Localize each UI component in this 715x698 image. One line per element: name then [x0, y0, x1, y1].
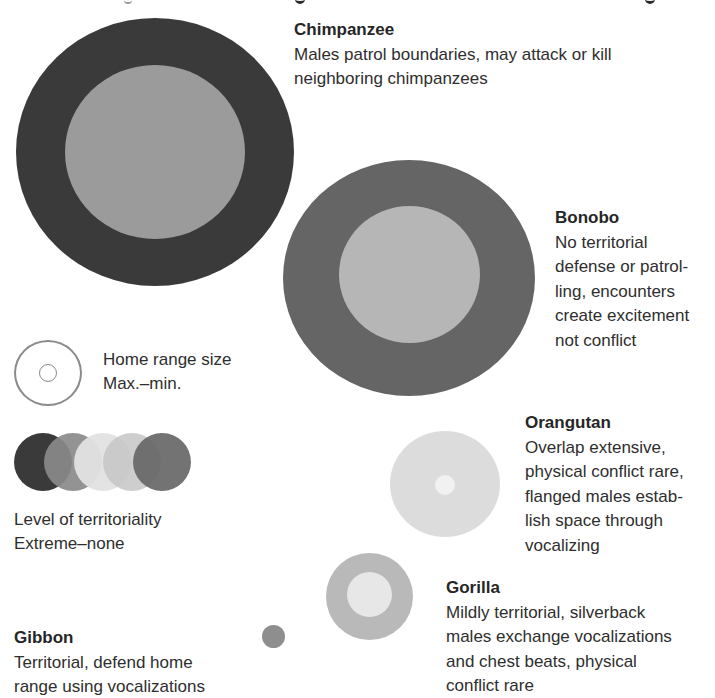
species-description-line: Males patrol boundaries, may attack or k…	[294, 43, 611, 68]
species-name: Gibbon	[14, 626, 205, 651]
territoriality-legend-label: Level of territoriality Extreme–none	[14, 508, 161, 556]
orangutan-inner-circle	[435, 475, 455, 495]
species-description-line: Territorial, defend home	[14, 651, 205, 676]
legend-text: Extreme–none	[14, 532, 161, 556]
species-description-line: defense or patrol-	[555, 255, 689, 280]
legend-text: Home range size	[103, 348, 232, 372]
gorilla-label: Gorilla Mildly territorial, silverback m…	[446, 576, 672, 698]
species-description-line: lish space through	[525, 509, 684, 534]
chimpanzee-inner-circle	[65, 65, 245, 239]
species-description-line: males exchange vocalizations	[446, 625, 672, 650]
gibbon-label: Gibbon Territorial, defend home range us…	[14, 626, 205, 698]
legend-text: Level of territoriality	[14, 508, 161, 532]
species-name: Bonobo	[555, 206, 689, 231]
orangutan-label: Orangutan Overlap extensive, physical co…	[525, 411, 684, 558]
clipped-title-fragment	[295, 0, 305, 4]
species-description-line: conflict rare	[446, 674, 672, 698]
territoriality-swatch-moderate	[133, 433, 191, 491]
gorilla-inner-circle	[347, 572, 392, 617]
territoriality-diagram: Chimpanzee Males patrol boundaries, may …	[0, 0, 715, 698]
clipped-title-fragment	[645, 0, 655, 4]
species-description-line: physical conflict rare,	[525, 460, 684, 485]
species-name: Orangutan	[525, 411, 684, 436]
species-description-line: and chest beats, physical	[446, 650, 672, 675]
clipped-title-fragment	[124, 0, 132, 4]
species-description-line: neighboring chimpanzees	[294, 67, 611, 92]
bonobo-label: Bonobo No territorial defense or patrol-…	[555, 206, 689, 353]
bonobo-inner-circle	[339, 206, 480, 343]
chimpanzee-label: Chimpanzee Males patrol boundaries, may …	[294, 18, 611, 92]
species-description-line: not conflict	[555, 329, 689, 354]
species-description-line: No territorial	[555, 231, 689, 256]
home-range-legend-label: Home range size Max.–min.	[103, 348, 232, 396]
species-name: Gorilla	[446, 576, 672, 601]
species-description-line: ling, encounters	[555, 280, 689, 305]
species-name: Chimpanzee	[294, 18, 611, 43]
home-range-inner-ring-icon	[39, 364, 57, 382]
species-description-line: Mildly territorial, silverback	[446, 601, 672, 626]
gibbon-circle	[262, 625, 285, 648]
species-description-line: range using vocalizations	[14, 675, 205, 698]
species-description-line: flanged males estab-	[525, 485, 684, 510]
species-description-line: create excitement	[555, 304, 689, 329]
legend-text: Max.–min.	[103, 372, 232, 396]
species-description-line: vocalizing	[525, 534, 684, 559]
species-description-line: Overlap extensive,	[525, 436, 684, 461]
